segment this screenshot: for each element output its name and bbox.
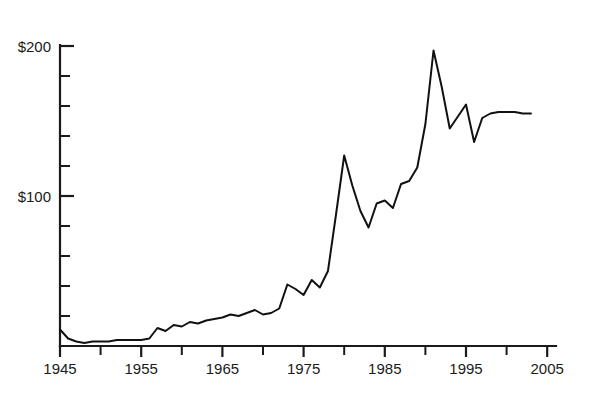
x-axis-tick-label: 1985 bbox=[368, 360, 401, 377]
x-axis-tick-label: 1965 bbox=[206, 360, 239, 377]
x-axis-tick-label: 1995 bbox=[449, 360, 482, 377]
chart-background bbox=[0, 0, 590, 393]
y-axis-tick-label: $200 bbox=[18, 38, 51, 55]
chart-canvas: $200$100 1945195519651975198519952005 bbox=[0, 0, 590, 393]
x-axis-tick-label: 1955 bbox=[125, 360, 158, 377]
x-axis-tick-label: 1975 bbox=[287, 360, 320, 377]
x-axis-tick-label: 1945 bbox=[43, 360, 76, 377]
line-chart-figure: $200$100 1945195519651975198519952005 bbox=[0, 0, 590, 393]
x-axis-tick-label: 2005 bbox=[531, 360, 564, 377]
y-axis-tick-label: $100 bbox=[18, 188, 51, 205]
